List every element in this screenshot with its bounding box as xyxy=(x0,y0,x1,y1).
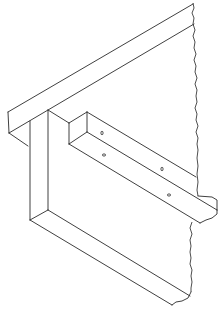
screw-hole-icon xyxy=(101,131,103,135)
cleat-bar xyxy=(69,112,217,223)
wall-break-line xyxy=(190,3,198,292)
bracket-drawing xyxy=(0,0,221,316)
diagonal-beam xyxy=(8,4,194,146)
screw-hole-icon xyxy=(102,154,105,156)
screw-hole-icon xyxy=(167,194,170,196)
screw-hole-icon xyxy=(161,167,163,171)
vertical-board xyxy=(30,110,191,305)
